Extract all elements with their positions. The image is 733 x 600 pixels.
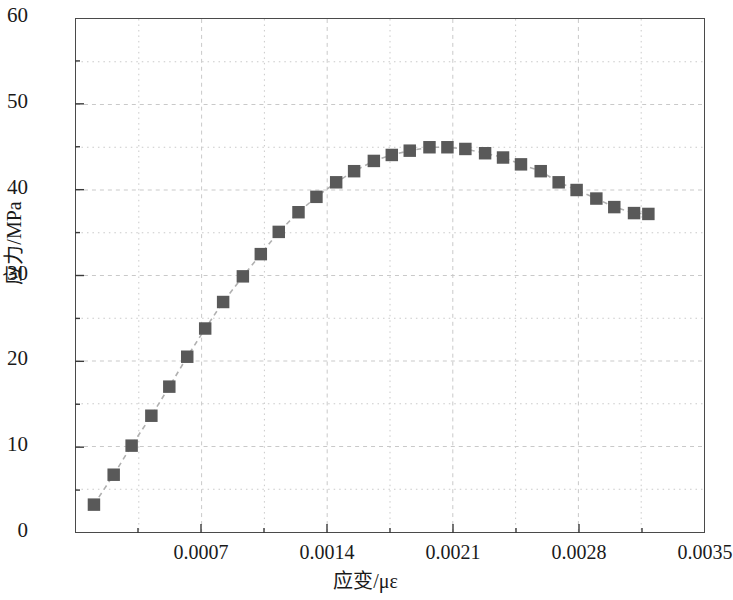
plot-area [75, 18, 705, 533]
x-axis-title-text: 应变/με [333, 570, 398, 592]
x-axis-tick-label: 0.0035 [678, 541, 733, 563]
x-axis-title: 应变/με [0, 570, 731, 592]
x-axis-tick-label: 0.0028 [552, 541, 607, 563]
x-axis-tick-label: 0.0007 [174, 541, 229, 563]
x-axis-tick-label: 0.0021 [426, 541, 481, 563]
data-series [76, 19, 704, 532]
y-axis-title: 应力/MPa [3, 143, 25, 343]
y-axis-tick-label: 20 [7, 348, 28, 369]
y-axis-tick-label: 10 [7, 434, 28, 455]
y-axis-tick-label: 50 [7, 91, 28, 112]
y-axis-title-text: 应力/MPa [3, 201, 25, 284]
y-axis-tick-label: 0 [18, 520, 29, 541]
y-axis-tick-label: 60 [7, 5, 28, 26]
x-axis-tick-label: 0.0014 [300, 541, 355, 563]
